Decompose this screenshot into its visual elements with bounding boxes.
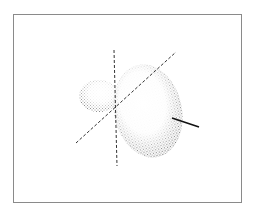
large-lobe <box>105 58 191 164</box>
small-lobe <box>79 80 119 112</box>
orbital-diagram <box>0 0 259 214</box>
